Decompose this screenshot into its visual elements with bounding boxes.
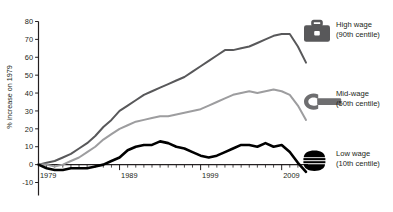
data-series-group [39,34,307,172]
x-tick-label: 1979 [40,171,56,180]
y-tick-label: 70 [25,35,33,44]
y-tick-label: 30 [25,107,33,116]
wage-growth-line-chart: % increase on 1979 -1001020304050607080 … [0,0,393,212]
legend-item-high-wage: High wage (90th centile) [304,20,380,42]
y-tick-label: 20 [25,125,33,134]
legend-label-high-wage: High wage [336,20,372,29]
legend-item-low-wage: Low wage (10th centile) [303,149,380,171]
legend-sub-low-wage: (10th centile) [336,159,380,168]
legend-label-low-wage: Low wage [336,149,370,158]
burger-icon [303,150,325,171]
series-line-mid-wage [39,89,307,166]
legend-label-mid-wage: Mid-wage [336,89,369,98]
x-tick-label: 2009 [283,171,299,180]
legend-sub-high-wage: (90th centile) [336,30,380,39]
x-tick-label: 1989 [121,171,137,180]
y-tick-label: 10 [25,142,33,151]
y-tick-label: 40 [25,89,33,98]
x-tick-label: 1999 [202,171,218,180]
y-axis-title-text: % increase on 1979 [5,65,14,129]
chart-svg: % increase on 1979 -1001020304050607080 … [0,0,393,212]
y-tick-label: -10 [22,178,33,187]
y-tick-label: 80 [25,17,33,26]
y-axis-title: % increase on 1979 [5,65,14,129]
legend-item-mid-wage: Mid-wage (50th centile) [304,89,380,110]
briefcase-icon [304,21,330,42]
x-axis-tick-labels: 1979198919992009 [40,171,300,180]
y-tick-label: 60 [25,53,33,62]
legend: High wage (90th centile) Mid-wage (50th … [303,20,380,171]
y-tick-label: 0 [29,160,33,169]
y-tick-label: 50 [25,71,33,80]
y-axis-tick-labels: -1001020304050607080 [22,17,33,187]
legend-sub-mid-wage: (50th centile) [336,99,380,108]
